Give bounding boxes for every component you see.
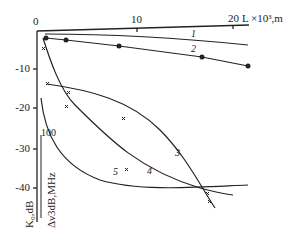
curve-4 [43,38,233,195]
y2-axis-label: Δν3dB,MHz [45,172,57,228]
curve-label-2: 2 [191,44,196,54]
x-tick-10: 10 [131,14,142,25]
x-markers [42,47,211,203]
curve-1 [45,34,248,45]
y-tick-m20: -20 [4,102,30,113]
y-tick-m30: -30 [4,143,30,154]
y-axis-label: K₀,dB [23,201,35,228]
y2-tick-100: 100 [41,128,56,138]
curve-label-5: 5 [113,167,118,177]
x-tick-20: 20 [228,13,239,24]
y-tick-m40: -40 [4,182,30,193]
curve-label-3: 3 [175,148,180,158]
curve-label-4: 4 [147,166,152,176]
curve-label-1: 1 [191,29,196,39]
x-tick-0: 0 [33,16,39,27]
chart-plot [0,0,284,241]
x-axis-label: L ×10³,m [242,13,283,24]
x-axis [37,25,249,31]
y-tick-m10: -10 [4,63,30,74]
curve-5 [41,98,248,188]
